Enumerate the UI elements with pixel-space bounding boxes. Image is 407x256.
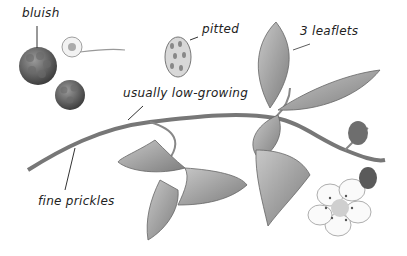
label-fine-prickles: fine prickles — [38, 194, 115, 208]
label-3-leaflets: 3 leaflets — [300, 24, 358, 38]
label-usually-low-growing: usually low-growing — [123, 86, 248, 100]
seed-pitted — [165, 37, 198, 77]
small-flower — [62, 37, 125, 57]
white-flower — [308, 179, 371, 236]
label-pitted: pitted — [202, 22, 239, 36]
label-bluish: bluish — [22, 6, 60, 20]
botanical-illustration: bluish pitted 3 leaflets usually low-gro… — [0, 0, 407, 256]
plant-drawing — [0, 0, 407, 256]
pointer-lines — [65, 106, 143, 190]
